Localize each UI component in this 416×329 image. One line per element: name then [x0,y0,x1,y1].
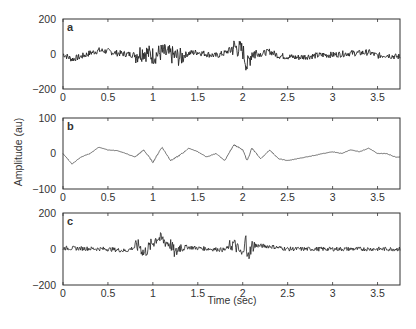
x-tick: 1.5 [190,191,205,203]
x-tick: 3.5 [370,287,385,299]
panel-c: c 200 0 −200 00.511.522.533.5 [32,207,400,299]
x-tick: 0.5 [101,287,116,299]
x-tick: 1 [150,287,156,299]
figure: Amplitude (au) Time (sec) a 200 0 −200 0… [0,0,416,329]
x-tick: 0.5 [101,191,116,203]
x-tick: 1.5 [190,287,205,299]
y-tick-labels: 200 0 −200 [32,207,56,291]
y-tick: −200 [32,279,56,291]
x-tick: 1 [150,191,156,203]
signal-trace [63,233,400,259]
signal-trace [63,145,400,164]
y-tick: 0 [50,147,56,159]
x-tick: 1 [150,91,156,103]
x-tick: 3 [330,287,336,299]
x-tick: 2.5 [280,287,295,299]
y-tick: 0 [50,243,56,255]
plot-frame [63,118,400,189]
y-tick: 200 [38,207,56,219]
x-tick: 0 [60,91,66,103]
x-tick: 2 [240,91,246,103]
signal-trace [63,41,400,70]
y-tick: −100 [32,183,56,195]
x-tick: 0 [60,191,66,203]
y-axis-label: Amplitude (au) [12,118,24,186]
y-tick-labels: 200 0 −200 [32,13,56,95]
panel-label: a [67,21,74,33]
x-tick: 0.5 [101,91,116,103]
x-tick: 3.5 [370,191,385,203]
x-tick-labels: 00.511.522.533.5 [60,91,385,103]
x-tick: 2 [240,191,246,203]
x-tick-labels: 00.511.522.533.5 [60,191,385,203]
x-tick: 1.5 [190,91,205,103]
x-tick: 0 [60,287,66,299]
x-axis-label: Time (sec) [207,294,256,306]
panel-label: b [67,120,74,132]
x-tick: 3 [330,191,336,203]
y-tick-labels: 100 0 −100 [32,112,56,195]
x-tick: 3.5 [370,91,385,103]
panel-a: a 200 0 −200 00.511.522.533.5 [32,13,400,103]
x-tick: 2.5 [280,191,295,203]
panel-b: b 100 0 −100 00.511.522.533.5 [32,112,400,203]
y-tick: 200 [38,13,56,25]
x-tick: 3 [330,91,336,103]
y-tick: 100 [38,112,56,124]
y-tick: 0 [50,48,56,60]
x-tick: 2.5 [280,91,295,103]
y-tick: −200 [32,83,56,95]
x-tick: 2 [240,287,246,299]
panel-label: c [67,215,73,227]
